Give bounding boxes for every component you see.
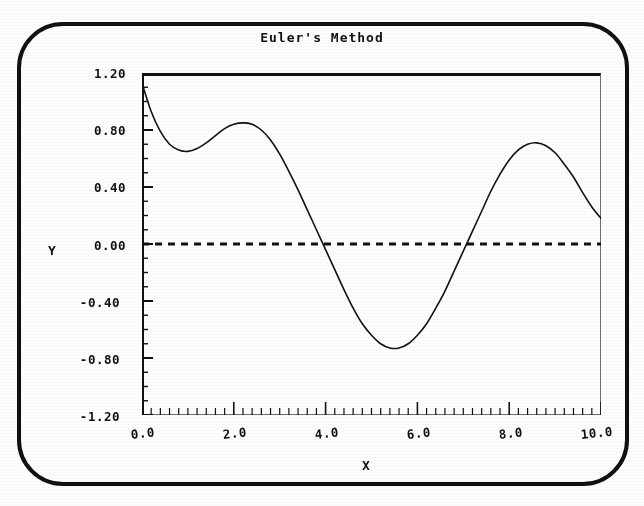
- x-tick-label-4: 8.0: [498, 424, 524, 441]
- series-line-euler-solution: [142, 83, 601, 349]
- y-tick-label-5: -0.80: [56, 352, 120, 367]
- x-tick-label-1: 2.0: [222, 424, 248, 441]
- y-tick-label-1: 0.80: [62, 123, 126, 138]
- x-tick-label-0: 0.0: [130, 424, 156, 441]
- plot-canvas: [142, 73, 601, 415]
- chart-title: Euler's Method: [0, 30, 644, 45]
- x-tick-label-2: 4.0: [314, 424, 340, 441]
- x-tick-label-3: 6.0: [406, 424, 432, 441]
- y-tick-label-0: 1.20: [62, 66, 126, 81]
- crt-screen-photo: Euler's Method 1.20 0.80 0.40 0.00 -0.40…: [0, 0, 644, 506]
- y-tick-label-3: 0.00: [62, 238, 126, 253]
- y-tick-label-6: -1.20: [56, 409, 120, 424]
- y-axis-label: Y: [48, 243, 56, 258]
- x-axis-ticks: [142, 402, 601, 415]
- x-axis-label: X: [362, 458, 370, 473]
- y-tick-label-4: -0.40: [56, 295, 120, 310]
- y-tick-label-2: 0.40: [62, 180, 126, 195]
